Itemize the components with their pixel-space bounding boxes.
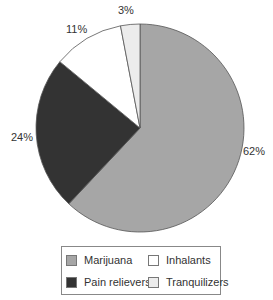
swatch-pain-relievers (66, 277, 77, 288)
label-tranquilizers: 3% (118, 4, 134, 16)
swatch-inhalants (148, 255, 159, 266)
label-inhalants: 11% (66, 23, 87, 35)
swatch-marijuana (66, 255, 77, 266)
label-pain-relievers: 24% (11, 131, 33, 143)
legend-item-inhalants: Inhalants (148, 254, 211, 266)
legend-item-marijuana: Marijuana (66, 254, 132, 266)
label-marijuana: 62% (243, 145, 265, 157)
legend-item-pain-relievers: Pain relievers (66, 276, 151, 288)
legend: Marijuana Inhalants Pain relievers Tranq… (61, 246, 221, 295)
swatch-tranquilizers (148, 277, 159, 288)
legend-item-tranquilizers: Tranquilizers (148, 276, 229, 288)
